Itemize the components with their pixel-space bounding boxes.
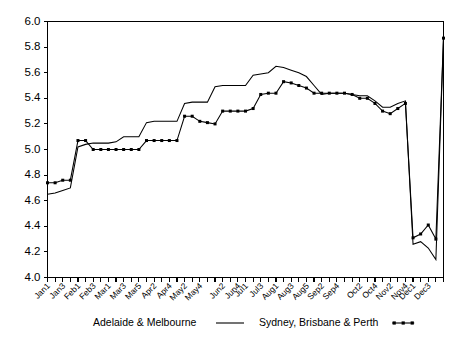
data-point-marker — [389, 112, 392, 115]
series-line-sydney-brisbane-perth — [48, 38, 444, 239]
y-tick-label: 5.8 — [25, 40, 41, 52]
data-point-marker — [221, 110, 224, 113]
data-point-marker — [61, 179, 64, 182]
data-point-marker — [343, 92, 346, 95]
data-point-marker — [69, 179, 72, 182]
legend-label-sydney-brisbane-perth: Sydney, Brisbane & Perth — [259, 316, 379, 328]
data-point-marker — [442, 37, 445, 40]
x-tick-label: Dec3 — [412, 281, 433, 302]
data-point-marker — [282, 80, 285, 83]
data-point-marker — [396, 107, 399, 110]
data-point-marker — [351, 93, 354, 96]
y-tick-label-group: 4.04.24.44.64.85.05.25.45.65.86.0 — [25, 15, 42, 283]
data-point-marker — [153, 139, 156, 142]
data-point-marker — [419, 232, 422, 235]
y-tick-label: 4.6 — [25, 194, 41, 206]
data-point-marker — [107, 148, 110, 151]
data-point-marker — [404, 102, 407, 105]
series-marker-group-sydney-brisbane-perth — [46, 37, 445, 241]
legend-label-adelaide-melbourne: Adelaide & Melbourne — [93, 316, 196, 328]
data-point-marker — [168, 139, 171, 142]
x-tick-label-group: Jan1Jan3Feb1Feb3Mar1Mar3Mar5Apr2Apr4May2… — [32, 281, 433, 303]
data-point-marker — [290, 81, 293, 84]
data-point-marker — [92, 148, 95, 151]
data-point-marker — [373, 102, 376, 105]
y-tick-label: 4.8 — [25, 168, 41, 180]
data-point-marker — [160, 139, 163, 142]
data-point-marker — [244, 110, 247, 113]
data-point-marker — [54, 181, 57, 184]
data-point-marker — [313, 92, 316, 95]
data-point-marker — [76, 139, 79, 142]
data-point-marker — [274, 92, 277, 95]
data-point-marker — [259, 93, 262, 96]
data-point-marker — [358, 97, 361, 100]
data-point-marker — [305, 87, 308, 90]
y-tick-label: 5.6 — [25, 66, 41, 78]
data-point-marker — [434, 238, 437, 241]
data-point-marker — [236, 110, 239, 113]
data-point-marker — [175, 139, 178, 142]
series-sydney-brisbane-perth — [46, 37, 445, 241]
data-point-marker — [297, 84, 300, 87]
x-tick-label: Sep4 — [320, 281, 341, 302]
series-adelaide-melbourne — [48, 38, 444, 259]
y-tick-label: 5.0 — [25, 143, 41, 155]
data-point-marker — [335, 92, 338, 95]
x-axis-group: Jan1Jan3Feb1Feb3Mar1Mar3Mar5Apr2Apr4May2… — [32, 278, 444, 303]
y-tick-label: 5.4 — [25, 91, 42, 103]
y-tick-label: 4.0 — [25, 271, 41, 283]
data-point-marker — [191, 115, 194, 118]
data-point-marker — [252, 107, 255, 110]
legend: Adelaide & Melbourne Sydney, Brisbane & … — [93, 316, 414, 328]
data-point-marker — [366, 97, 369, 100]
data-point-marker — [130, 148, 133, 151]
legend-swatch-marker — [393, 321, 396, 324]
data-point-marker — [99, 148, 102, 151]
data-point-marker — [320, 92, 323, 95]
line-chart: 4.04.24.44.64.85.05.25.45.65.86.0 Jan1Ja… — [0, 0, 461, 346]
x-tick-group — [48, 278, 444, 282]
series-line-adelaide-melbourne — [48, 38, 444, 259]
data-point-marker — [115, 148, 118, 151]
y-tick-label: 4.4 — [25, 219, 42, 231]
legend-swatch-marker — [411, 321, 414, 324]
y-tick-label: 4.2 — [25, 245, 41, 257]
data-point-marker — [137, 148, 140, 151]
y-tick-label: 6.0 — [25, 15, 41, 27]
legend-swatch-marker — [402, 321, 405, 324]
y-tick-label: 5.2 — [25, 117, 41, 129]
data-point-marker — [198, 120, 201, 123]
data-point-marker — [122, 148, 125, 151]
data-point-marker — [267, 92, 270, 95]
data-point-marker — [427, 224, 430, 227]
data-point-marker — [328, 92, 331, 95]
data-point-marker — [145, 139, 148, 142]
data-point-marker — [183, 115, 186, 118]
data-point-marker — [46, 181, 49, 184]
x-tick-label: May4 — [183, 281, 205, 303]
data-point-marker — [214, 122, 217, 125]
y-axis-group: 4.04.24.44.64.85.05.25.45.65.86.0 — [25, 15, 48, 283]
legend-swatch-marker-sydney-brisbane-perth — [392, 321, 414, 324]
chart-container: 4.04.24.44.64.85.05.25.45.65.86.0 Jan1Ja… — [0, 0, 461, 346]
data-point-marker — [206, 121, 209, 124]
data-point-marker — [84, 139, 87, 142]
data-point-marker — [412, 236, 415, 239]
data-point-marker — [381, 110, 384, 113]
data-point-marker — [229, 110, 232, 113]
